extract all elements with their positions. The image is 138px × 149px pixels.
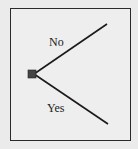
branch-yes-line bbox=[34, 74, 108, 124]
decision-tree-diagram: No Yes bbox=[0, 0, 138, 149]
decision-node-square bbox=[28, 70, 36, 78]
branch-label-no: No bbox=[49, 36, 64, 48]
tree-graphic bbox=[0, 0, 138, 149]
branch-no-line bbox=[34, 24, 107, 74]
branch-label-yes: Yes bbox=[47, 102, 64, 114]
